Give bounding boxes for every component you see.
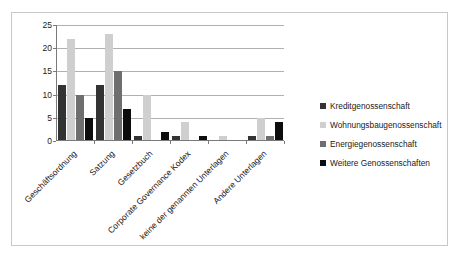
legend-item[interactable]: Wohnungsbaugenossenschaft [320,120,446,130]
legend-item[interactable]: Weitere Genossenschaften [320,158,446,168]
y-axis-line [56,25,57,141]
bar [105,34,113,141]
chart-legend: KreditgenossenschaftWohnungsbaugenossens… [320,101,446,177]
legend-label: Wohnungsbaugenossenschaft [330,120,441,130]
bar [58,85,66,141]
y-tick-label: 5 [47,113,52,123]
bar [114,71,122,141]
legend-swatch-icon [320,103,326,109]
plot-area: 0510152025 [56,25,284,141]
bar-group [132,25,170,141]
bar [181,122,189,141]
x-tick-mark [284,141,285,144]
x-axis-line [56,140,284,141]
y-tick-mark [53,141,56,142]
x-tick-mark [208,141,209,144]
y-tick-label: 0 [47,136,52,146]
bar [67,39,75,141]
bar [123,109,131,141]
bar-group [170,25,208,141]
y-tick-label: 10 [43,90,52,100]
legend-label: Kreditgenossenschaft [330,101,410,111]
bar-group [208,25,246,141]
bar [275,122,283,141]
bar-group [56,25,94,141]
y-tick-label: 25 [43,20,52,30]
legend-swatch-icon [320,160,326,166]
legend-swatch-icon [320,122,326,128]
legend-item[interactable]: Energiegenossenschaft [320,139,446,149]
x-tick-mark [132,141,133,144]
x-tick-mark [246,141,247,144]
bar-group [246,25,284,141]
bar [257,118,265,141]
bar [96,85,104,141]
legend-item[interactable]: Kreditgenossenschaft [320,101,446,111]
bar [85,118,93,141]
y-tick-label: 15 [43,66,52,76]
x-tick-mark [170,141,171,144]
bar [143,95,151,141]
x-tick-mark [94,141,95,144]
bar-group [94,25,132,141]
y-tick-label: 20 [43,43,52,53]
chart-frame: 0510152025 GeschäftsordnungSatzungGesetz… [11,12,448,246]
legend-swatch-icon [320,141,326,147]
legend-label: Weitere Genossenschaften [330,158,430,168]
legend-label: Energiegenossenschaft [330,139,417,149]
bar [76,95,84,141]
